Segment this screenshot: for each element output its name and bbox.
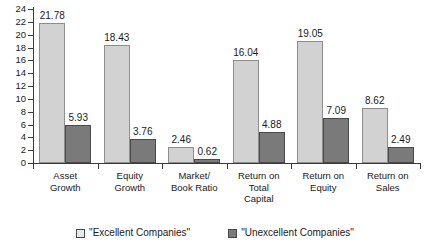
legend-item: "Excellent Companies" — [76, 228, 190, 238]
chart-legend: "Excellent Companies""Unexcellent Compan… — [0, 228, 430, 238]
category-label-line: Growth — [33, 182, 98, 194]
legend-label: "Excellent Companies" — [89, 228, 190, 238]
x-axis-tick — [291, 163, 292, 169]
category-label-line: Return on — [227, 170, 292, 182]
bar — [65, 125, 91, 163]
bar-value-label: 3.76 — [124, 127, 162, 137]
bar-value-label: 0.62 — [188, 147, 226, 157]
bar-group: 18.433.76 — [104, 9, 156, 163]
bar-value-label: 5.93 — [59, 113, 97, 123]
bar-chart: 024681012141618202224 21.785.9318.433.76… — [0, 0, 430, 249]
bar-group: 8.622.49 — [362, 9, 414, 163]
x-axis-tick — [227, 163, 228, 169]
bar — [323, 118, 349, 163]
category-label-line: Equity — [98, 170, 163, 182]
bar-value-label: 8.62 — [356, 96, 394, 106]
category-label-line: Growth — [98, 182, 163, 194]
y-axis-tick-label: 18 — [0, 43, 26, 53]
legend-swatch-icon — [228, 229, 237, 238]
x-axis-tick — [98, 163, 99, 169]
category-label: AssetGrowth — [33, 170, 98, 193]
category-label: EquityGrowth — [98, 170, 163, 193]
category-label-line: Book Ratio — [162, 182, 227, 194]
bar — [297, 41, 323, 163]
category-label-line: Return on — [291, 170, 356, 182]
y-axis-tick-label: 10 — [0, 94, 26, 104]
x-axis-tick — [33, 163, 34, 169]
bar-value-label: 16.04 — [227, 48, 265, 58]
y-axis-tick-label: 12 — [0, 81, 26, 91]
bar-value-label: 4.88 — [253, 120, 291, 130]
y-axis-tick-label: 20 — [0, 30, 26, 40]
y-axis-tick-label: 22 — [0, 17, 26, 27]
legend-item: "Unexcellent Companies" — [228, 228, 354, 238]
bar-value-label: 2.49 — [382, 135, 420, 145]
bar — [259, 132, 285, 163]
bar — [104, 45, 130, 163]
bar — [194, 159, 220, 163]
x-axis-tick — [356, 163, 357, 169]
x-axis-tick — [420, 163, 421, 169]
bar-group: 19.057.09 — [297, 9, 349, 163]
y-axis-tick-label: 16 — [0, 55, 26, 65]
category-label-line: Equity — [291, 182, 356, 194]
bar-group: 2.460.62 — [168, 9, 220, 163]
category-label-line: Market/ — [162, 170, 227, 182]
category-label-line: Capital — [227, 193, 292, 205]
x-axis-tick — [162, 163, 163, 169]
category-label-line: Sales — [356, 182, 421, 194]
category-label-line: Return on — [356, 170, 421, 182]
legend-swatch-icon — [76, 229, 85, 238]
category-label-line: Total — [227, 182, 292, 194]
bar-group: 21.785.93 — [39, 9, 91, 163]
bar — [39, 23, 65, 163]
y-axis-tick-label: 8 — [0, 107, 26, 117]
y-axis-tick-label: 2 — [0, 145, 26, 155]
bar — [388, 147, 414, 163]
category-label-line: Asset — [33, 170, 98, 182]
bar-value-label: 2.46 — [162, 135, 200, 145]
category-label: Market/Book Ratio — [162, 170, 227, 193]
legend-label: "Unexcellent Companies" — [241, 228, 354, 238]
y-axis-tick-label: 4 — [0, 132, 26, 142]
category-label: Return onSales — [356, 170, 421, 193]
bar-value-label: 21.78 — [33, 11, 71, 21]
bar-value-label: 18.43 — [98, 33, 136, 43]
bar-value-label: 19.05 — [291, 29, 329, 39]
bar — [233, 60, 259, 163]
y-axis-tick-label: 14 — [0, 68, 26, 78]
bar — [130, 139, 156, 163]
y-axis-tick-label: 24 — [0, 4, 26, 14]
plot-area: 21.785.9318.433.762.460.6216.044.8819.05… — [33, 9, 420, 163]
y-axis-tick-label: 0 — [0, 158, 26, 168]
category-label: Return onEquity — [291, 170, 356, 193]
bar-value-label: 7.09 — [317, 106, 355, 116]
category-label: Return onTotalCapital — [227, 170, 292, 205]
y-axis-tick-label: 6 — [0, 120, 26, 130]
bar-group: 16.044.88 — [233, 9, 285, 163]
